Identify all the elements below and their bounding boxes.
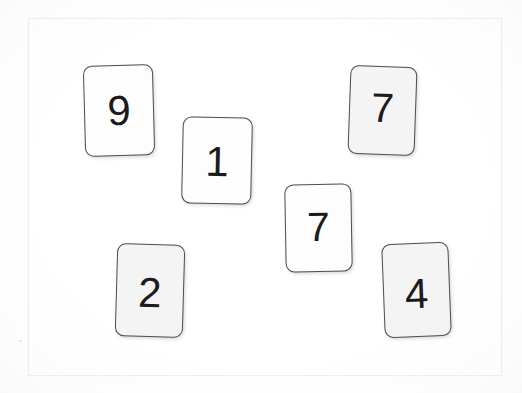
number-card[interactable]: 9 (83, 64, 155, 157)
card-digit: 7 (307, 206, 331, 247)
number-card[interactable]: 2 (115, 243, 186, 338)
card-digit: 4 (404, 273, 429, 316)
card-digit: 2 (138, 271, 163, 314)
card-digit: 7 (370, 88, 394, 130)
number-card[interactable]: 4 (381, 242, 452, 339)
number-card-scene: 917724 (0, 0, 522, 393)
number-card[interactable]: 1 (181, 116, 253, 204)
card-digit: 1 (205, 140, 229, 182)
number-card[interactable]: 7 (347, 65, 417, 156)
number-card[interactable]: 7 (284, 183, 353, 272)
scan-speck-artifact (19, 340, 22, 342)
card-digit: 9 (107, 89, 131, 132)
